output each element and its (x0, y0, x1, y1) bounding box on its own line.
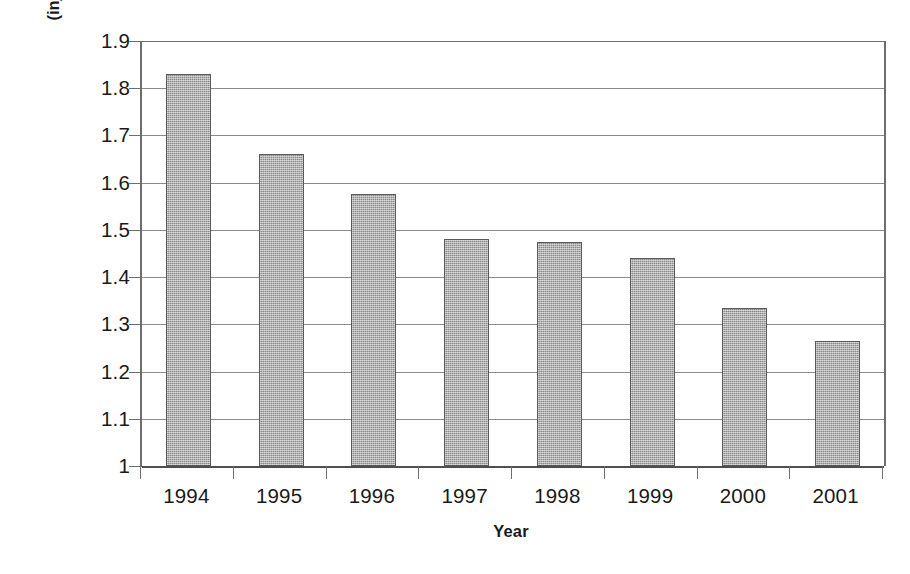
x-tick-label: 1999 (604, 482, 697, 510)
x-tick-label: 1994 (140, 482, 233, 510)
x-tick-label: 1997 (418, 482, 511, 510)
y-tick-mark-1.6 (129, 183, 142, 184)
x-axis-title: Year (140, 522, 882, 541)
y-tick-label: 1.4 (52, 266, 130, 288)
y-tick-label: 1.7 (52, 124, 130, 146)
y-tick-mark-1.3 (129, 324, 142, 325)
bar-1998 (537, 242, 582, 466)
y-axis-tick-labels: 1.91.81.71.61.51.41.31.21.11 (52, 0, 130, 574)
bar-1994 (166, 74, 211, 466)
y-tick-mark-1.7 (129, 135, 142, 136)
x-tick-mark (140, 466, 141, 479)
bars-group (142, 41, 884, 466)
y-tick-label: 1.3 (52, 313, 130, 335)
bar-2001 (815, 341, 860, 466)
x-tick-label: 2001 (789, 482, 882, 510)
bar-1997 (444, 239, 489, 466)
x-tick-label: 1998 (511, 482, 604, 510)
y-tick-mark-1.4 (129, 277, 142, 278)
x-tick-mark (789, 466, 790, 479)
x-tick-mark (697, 466, 698, 479)
x-axis-tick-labels: 19941995199619971998199920002001 (140, 482, 882, 512)
bar-chart-figure: MSI Incidence Rate (injuries/FTE* employ… (0, 0, 910, 574)
bar-2000 (722, 308, 767, 466)
x-tick-label: 1996 (326, 482, 419, 510)
y-tick-mark-1.9 (129, 41, 142, 42)
x-tick-mark (233, 466, 234, 479)
y-tick-mark-1.1 (129, 419, 142, 420)
x-tick-label: 1995 (233, 482, 326, 510)
x-tick-mark (326, 466, 327, 479)
x-tick-label: 2000 (697, 482, 790, 510)
y-tick-label: 1.6 (52, 172, 130, 194)
x-tick-mark (604, 466, 605, 479)
x-tick-mark (511, 466, 512, 479)
y-tick-label: 1.1 (52, 408, 130, 430)
y-tick-mark-1.8 (129, 88, 142, 89)
y-tick-mark-1.5 (129, 230, 142, 231)
y-tick-label: 1 (52, 455, 130, 477)
y-tick-label: 1.9 (52, 30, 130, 52)
bar-1996 (351, 194, 396, 466)
y-tick-mark-1.2 (129, 372, 142, 373)
y-tick-label: 1.8 (52, 77, 130, 99)
bar-1999 (630, 258, 675, 466)
x-tick-mark (882, 466, 883, 479)
bar-1995 (259, 154, 304, 466)
plot-area (140, 41, 886, 466)
x-axis-tick-marks (140, 466, 882, 480)
y-tick-label: 1.2 (52, 361, 130, 383)
x-tick-mark (418, 466, 419, 479)
y-tick-label: 1.5 (52, 219, 130, 241)
